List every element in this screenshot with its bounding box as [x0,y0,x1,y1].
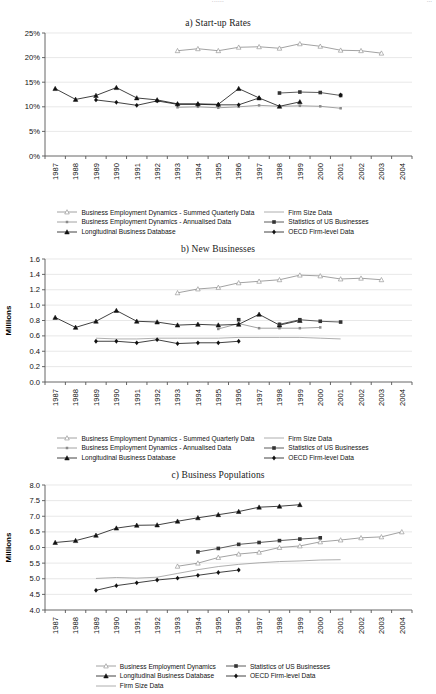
legend-label: Business Employment Dynamics - Annualise… [81,218,264,228]
data-point [319,326,322,329]
legend-label: Statistics of US Businesses [288,218,378,228]
legend-row: Business Employment DynamicsStatistics o… [96,662,340,672]
legend-marker [57,218,81,228]
x-tick-label: 1999 [296,617,305,634]
legend-marker [57,208,81,218]
x-tick-label: 2004 [398,163,407,180]
data-point [278,323,282,327]
legend-marker [264,453,288,463]
data-point [176,576,180,581]
y-tick-label: 1.4 [29,270,40,279]
legend-marker [226,681,250,691]
x-tick-label: 1990 [112,617,121,634]
legend-row: Business Employment Dynamics - Annualise… [57,444,378,454]
chart-panel-business-populations: c) Business Populations 4.04.55.05.56.06… [0,470,436,670]
legend-table: Business Employment DynamicsStatistics o… [96,662,340,691]
y-axis-title: Millions [4,305,13,335]
data-point [298,318,302,322]
data-point [135,580,139,585]
y-tick-label: 5.0 [29,574,40,583]
x-tick-label: 1995 [214,617,223,634]
legend-label: Firm Size Data [288,434,378,444]
y-tick-label: 0.6 [29,331,40,340]
y-tick-label: 1.6 [29,255,40,264]
x-tick-label: 1999 [296,163,305,180]
data-point [135,340,139,345]
legend-label: Business Employment Dynamics - Summed Qu… [81,208,264,218]
y-tick-label: 0% [29,152,40,161]
y-tick-label: 7.0 [29,512,40,521]
x-tick-label: 1995 [214,163,223,180]
legend-label: Business Employment Dynamics - Annualise… [81,444,264,454]
y-axis-title: Millions [4,532,13,562]
y-tick-label: 0.0 [29,378,40,387]
legend-label: Longitudinal Business Database [120,672,226,682]
y-tick-label: 1.0 [29,301,40,310]
data-point [237,543,241,547]
x-tick-label: 1987 [51,163,60,180]
x-tick-label: 1992 [153,163,162,180]
x-tick-label: 1996 [234,617,243,634]
x-tick-label: 1989 [92,163,101,180]
legend-table: Business Employment Dynamics - Summed Qu… [57,434,378,463]
x-tick-label: 2002 [357,389,366,406]
data-point [278,539,282,543]
data-point [298,537,302,541]
page-header: ...... ... [0,0,436,9]
y-tick-label: 4.5 [29,590,40,599]
x-tick-label: 2004 [398,617,407,634]
chart-legend-a: Business Employment Dynamics - Summed Qu… [0,208,436,237]
data-point [94,319,99,323]
y-tick-label: 20% [25,53,40,62]
data-point [216,570,220,575]
data-point [94,93,99,97]
data-point [114,85,119,89]
chart-legend-b: Business Employment Dynamics - Summed Qu… [0,434,436,463]
x-tick-label: 2000 [316,617,325,634]
legend-table: Business Employment Dynamics - Summed Qu… [57,208,378,237]
legend-row: Firm Size Data [96,681,340,691]
data-point [114,339,118,344]
legend-marker [264,227,288,237]
data-point [257,541,261,545]
x-tick-label: 1992 [153,389,162,406]
chart-panel-new-businesses: b) New Businesses 0.00.20.40.60.81.01.21… [0,244,436,442]
legend-label: Business Employment Dynamics - Summed Qu… [81,434,264,444]
data-point [196,340,200,345]
x-tick-label: 2004 [398,389,407,406]
x-tick-label: 1997 [255,617,264,634]
data-point [236,86,241,90]
y-tick-label: 5% [29,127,40,136]
legend-marker [57,227,81,237]
x-tick-label: 2001 [336,163,345,180]
data-point [258,327,261,330]
data-point [257,312,262,316]
legend-marker [226,672,250,682]
y-tick-label: 10% [25,102,40,111]
data-point [217,547,221,551]
page-header-center: ...... [0,0,436,4]
chart-plot-b: 0.00.20.40.60.81.01.21.41.6Millions19871… [0,254,436,442]
data-point [299,327,302,330]
x-tick-label: 1993 [173,389,182,406]
x-tick-label: 2001 [336,389,345,406]
chart-svg-business-populations: 4.04.55.05.56.06.57.07.58.0Millions19871… [0,480,436,670]
legend-label: OECD Firm-level Data [288,227,378,237]
legend-marker [57,434,81,444]
legend-label [250,681,340,691]
chart-panel-startup-rates: a) Start-up Rates 0%5%10%15%20%25%198719… [0,18,436,216]
legend-row: Business Employment Dynamics - Annualise… [57,218,378,228]
x-tick-label: 2003 [377,163,386,180]
x-tick-label: 1994 [194,389,203,406]
chart-svg-startup-rates: 0%5%10%15%20%25%198719881989199019911992… [0,28,436,216]
x-tick-label: 1991 [133,617,142,634]
x-tick-label: 1996 [234,163,243,180]
x-tick-label: 1997 [255,389,264,406]
legend-label: Statistics of US Businesses [250,662,340,672]
data-point [237,318,241,322]
chart-title-c: c) Business Populations [0,470,436,480]
y-tick-label: 15% [25,78,40,87]
x-tick-label: 1993 [173,163,182,180]
legend-marker [96,681,120,691]
x-tick-label: 1988 [71,389,80,406]
